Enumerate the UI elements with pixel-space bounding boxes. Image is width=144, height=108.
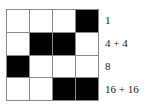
binary-grid-figure: 1 4 + 4 8 16 + 16 <box>0 0 144 108</box>
grid-cell <box>76 10 98 32</box>
grid-cell <box>7 33 29 55</box>
grid-cell <box>30 33 52 55</box>
grid-cell <box>7 56 29 78</box>
grid-cell <box>30 78 52 100</box>
grid-cell <box>30 56 52 78</box>
row-label-text: 8 <box>105 61 111 72</box>
row-label-text: 16 + 16 <box>105 84 139 95</box>
row-label-text: 4 + 4 <box>105 38 128 49</box>
row-label: 4 + 4 <box>105 32 144 55</box>
row-labels: 1 4 + 4 8 16 + 16 <box>105 9 144 101</box>
row-label: 1 <box>105 9 144 32</box>
row-label-text: 1 <box>105 15 111 26</box>
grid-cell <box>53 78 75 100</box>
grid-cell <box>7 10 29 32</box>
row-label: 8 <box>105 55 144 78</box>
grid-cell <box>76 56 98 78</box>
grid-cell <box>53 10 75 32</box>
grid-cell <box>53 33 75 55</box>
grid-cell <box>76 33 98 55</box>
grid-cell <box>76 78 98 100</box>
grid-cell <box>53 56 75 78</box>
grid-cell <box>7 78 29 100</box>
row-label: 16 + 16 <box>105 78 144 101</box>
grid-cell <box>30 10 52 32</box>
binary-grid <box>6 9 99 101</box>
